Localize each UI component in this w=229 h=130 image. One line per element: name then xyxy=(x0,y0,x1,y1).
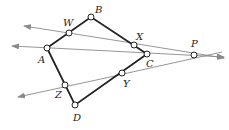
point-p xyxy=(191,52,197,58)
point-z xyxy=(62,82,68,88)
label-c: C xyxy=(146,58,154,69)
label-y: Y xyxy=(123,78,131,89)
geometry-diagram: A W B X C Y D Z P xyxy=(0,0,229,130)
point-w xyxy=(66,30,72,36)
label-p: P xyxy=(190,38,198,49)
label-b: B xyxy=(94,4,102,15)
label-w: W xyxy=(63,17,74,28)
label-z: Z xyxy=(54,89,63,100)
label-a: A xyxy=(37,54,45,65)
point-a xyxy=(44,45,50,51)
quadrilateral-abcd xyxy=(47,17,147,105)
label-x: X xyxy=(135,31,144,42)
point-x xyxy=(131,42,137,48)
point-d xyxy=(72,102,78,108)
point-b xyxy=(88,14,94,20)
point-y xyxy=(119,70,125,76)
label-d: D xyxy=(72,112,81,123)
point-c xyxy=(144,51,150,57)
